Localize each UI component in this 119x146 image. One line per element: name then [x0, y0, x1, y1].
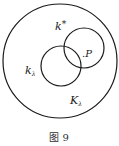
label-point-P: .P [82, 48, 92, 59]
label-K-lambda: Kλ [69, 94, 82, 107]
label-k-star: k* [55, 19, 67, 33]
venn-diagram: k* .P kλ Kλ 图 9 [0, 0, 119, 146]
figure-caption: 图 9 [49, 132, 69, 143]
label-k-lambda: kλ [25, 64, 36, 77]
